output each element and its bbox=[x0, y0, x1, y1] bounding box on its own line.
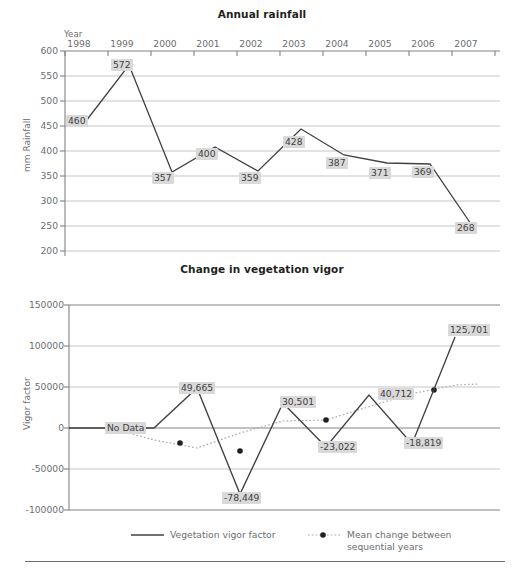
legend-marker-dot-icon bbox=[320, 532, 326, 538]
legend-label-mean: Mean change between sequential years bbox=[347, 529, 451, 553]
figure-container: Annual rainfall Year mm Rainfall 600 550… bbox=[0, 0, 524, 574]
bottom-rule bbox=[25, 561, 505, 562]
legend-svg bbox=[0, 0, 524, 574]
legend-label-vigor: Vegetation vigor factor bbox=[170, 529, 276, 541]
